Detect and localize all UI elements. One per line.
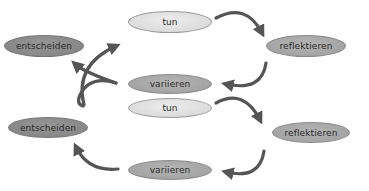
node-top-entscheiden: entscheiden xyxy=(4,35,84,57)
node-label: variieren xyxy=(150,165,191,175)
node-bottom-reflektieren: reflektieren xyxy=(272,122,350,143)
arrow-bottom-tun-to-reflektieren xyxy=(216,98,260,120)
node-bottom-tun: tun xyxy=(128,98,212,118)
node-top-tun: tun xyxy=(128,11,212,33)
arrow-bottom-reflektieren-to-variieren xyxy=(226,151,264,174)
node-label: entscheiden xyxy=(16,41,72,51)
node-top-variieren: variieren xyxy=(128,74,212,94)
node-bottom-entscheiden: entscheiden xyxy=(8,117,88,138)
node-label: variieren xyxy=(150,79,191,89)
node-top-reflektieren: reflektieren xyxy=(266,35,346,57)
arrow-bottom-variieren-to-entscheiden xyxy=(76,147,118,169)
node-label: tun xyxy=(162,103,177,113)
cycle-diagram: tun reflektieren variieren entscheiden t… xyxy=(0,0,369,191)
node-label: reflektieren xyxy=(280,41,333,51)
node-label: entscheiden xyxy=(20,123,76,133)
arrow-top-tun-to-reflektieren xyxy=(216,13,262,33)
node-label: tun xyxy=(162,17,177,27)
node-bottom-variieren: variieren xyxy=(128,160,212,180)
node-label: reflektieren xyxy=(285,128,338,138)
arrow-top-reflektieren-to-variieren xyxy=(226,63,266,86)
